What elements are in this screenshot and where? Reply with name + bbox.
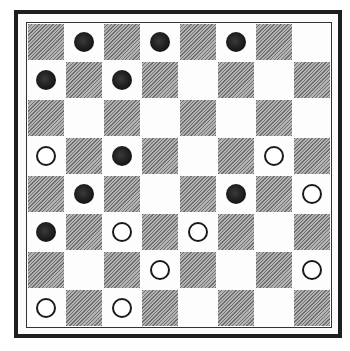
square-r5-c5[interactable]: [180, 176, 216, 212]
black-piece[interactable]: [112, 146, 132, 166]
black-piece[interactable]: [226, 32, 246, 52]
square-r7-c3[interactable]: [104, 252, 140, 288]
white-piece[interactable]: [264, 146, 284, 166]
square-r4-c7[interactable]: [255, 137, 293, 175]
square-r3-c1[interactable]: [28, 100, 64, 136]
square-r4-c3[interactable]: [103, 137, 141, 175]
square-r7-c5[interactable]: [180, 252, 216, 288]
white-piece[interactable]: [188, 222, 208, 242]
white-piece[interactable]: [302, 184, 322, 204]
square-r2-c2[interactable]: [66, 62, 102, 98]
square-r5-c4[interactable]: [141, 175, 179, 213]
square-r1-c6[interactable]: [217, 23, 255, 61]
square-r3-c2[interactable]: [65, 99, 103, 137]
square-r7-c4[interactable]: [141, 251, 179, 289]
square-r7-c2[interactable]: [65, 251, 103, 289]
square-r1-c7[interactable]: [256, 24, 292, 60]
square-r5-c8[interactable]: [293, 175, 331, 213]
square-r1-c8[interactable]: [293, 23, 331, 61]
square-r8-c3[interactable]: [103, 289, 141, 327]
square-r6-c8[interactable]: [294, 214, 330, 250]
square-r1-c4[interactable]: [141, 23, 179, 61]
square-r3-c4[interactable]: [141, 99, 179, 137]
square-r8-c8[interactable]: [294, 290, 330, 326]
square-r6-c3[interactable]: [103, 213, 141, 251]
square-r6-c4[interactable]: [142, 214, 178, 250]
square-r6-c7[interactable]: [255, 213, 293, 251]
white-piece[interactable]: [150, 260, 170, 280]
square-r2-c1[interactable]: [27, 61, 65, 99]
square-r1-c1[interactable]: [28, 24, 64, 60]
square-r2-c3[interactable]: [103, 61, 141, 99]
square-r6-c2[interactable]: [66, 214, 102, 250]
square-r3-c5[interactable]: [180, 100, 216, 136]
black-piece[interactable]: [74, 184, 94, 204]
square-r8-c4[interactable]: [142, 290, 178, 326]
square-r5-c7[interactable]: [256, 176, 292, 212]
square-r8-c5[interactable]: [179, 289, 217, 327]
white-piece[interactable]: [112, 298, 132, 318]
square-r2-c4[interactable]: [142, 62, 178, 98]
board-frame: [14, 10, 342, 338]
square-r4-c4[interactable]: [142, 138, 178, 174]
square-r4-c1[interactable]: [27, 137, 65, 175]
white-piece[interactable]: [36, 146, 56, 166]
square-r5-c3[interactable]: [104, 176, 140, 212]
black-piece[interactable]: [36, 70, 56, 90]
square-r1-c2[interactable]: [65, 23, 103, 61]
square-r3-c8[interactable]: [293, 99, 331, 137]
white-piece[interactable]: [36, 298, 56, 318]
square-r3-c3[interactable]: [104, 100, 140, 136]
black-piece[interactable]: [112, 70, 132, 90]
square-r2-c6[interactable]: [218, 62, 254, 98]
square-r4-c2[interactable]: [66, 138, 102, 174]
checkers-board[interactable]: [27, 23, 331, 327]
white-piece[interactable]: [112, 222, 132, 242]
square-r7-c1[interactable]: [28, 252, 64, 288]
square-r6-c6[interactable]: [218, 214, 254, 250]
square-r3-c7[interactable]: [256, 100, 292, 136]
black-piece[interactable]: [74, 32, 94, 52]
square-r8-c7[interactable]: [255, 289, 293, 327]
square-r1-c5[interactable]: [180, 24, 216, 60]
square-r5-c2[interactable]: [65, 175, 103, 213]
square-r7-c7[interactable]: [256, 252, 292, 288]
board-inner-border: [26, 22, 332, 328]
square-r2-c8[interactable]: [294, 62, 330, 98]
black-piece[interactable]: [36, 222, 56, 242]
square-r7-c6[interactable]: [217, 251, 255, 289]
square-r1-c3[interactable]: [104, 24, 140, 60]
square-r6-c5[interactable]: [179, 213, 217, 251]
square-r2-c7[interactable]: [255, 61, 293, 99]
black-piece[interactable]: [226, 184, 246, 204]
square-r5-c6[interactable]: [217, 175, 255, 213]
square-r3-c6[interactable]: [217, 99, 255, 137]
black-piece[interactable]: [150, 32, 170, 52]
square-r8-c2[interactable]: [66, 290, 102, 326]
square-r6-c1[interactable]: [27, 213, 65, 251]
square-r5-c1[interactable]: [28, 176, 64, 212]
square-r4-c8[interactable]: [294, 138, 330, 174]
square-r4-c6[interactable]: [218, 138, 254, 174]
white-piece[interactable]: [302, 260, 322, 280]
square-r7-c8[interactable]: [293, 251, 331, 289]
square-r8-c1[interactable]: [27, 289, 65, 327]
square-r8-c6[interactable]: [218, 290, 254, 326]
square-r4-c5[interactable]: [179, 137, 217, 175]
square-r2-c5[interactable]: [179, 61, 217, 99]
